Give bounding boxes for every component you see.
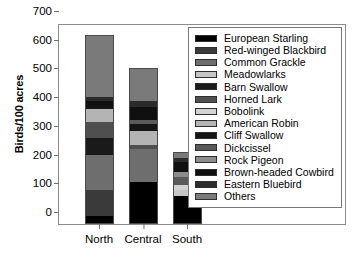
y-tick-label: 300 [33, 120, 59, 132]
legend-swatch [195, 120, 217, 127]
legend-swatch [195, 169, 217, 176]
legend-label: Rock Pigeon [224, 155, 284, 166]
y-tick-mark [54, 97, 59, 98]
y-tick-mark [54, 40, 59, 41]
legend-item: Common Grackle [195, 56, 334, 68]
legend-item: Rock Pigeon [195, 154, 334, 166]
legend: European StarlingRed-winged BlackbirdCom… [188, 27, 342, 208]
x-tick-mark [187, 224, 188, 229]
bar-segment [86, 109, 113, 122]
legend-label: Cliff Swallow [224, 130, 283, 141]
bar-segment [86, 155, 113, 191]
legend-label: Common Grackle [224, 57, 306, 68]
legend-swatch [195, 59, 217, 66]
legend-swatch [195, 156, 217, 163]
legend-item: Cliff Swallow [195, 130, 334, 142]
y-tick-label: 400 [33, 91, 59, 103]
legend-swatch [195, 83, 217, 90]
legend-label: Bobolink [224, 106, 264, 117]
x-tick-mark [143, 224, 144, 229]
legend-swatch [195, 47, 217, 54]
legend-swatch [195, 96, 217, 103]
bar-north [85, 35, 114, 225]
legend-label: Eastern Bluebird [224, 179, 302, 190]
legend-label: European Starling [224, 33, 308, 44]
legend-swatch [195, 35, 217, 42]
x-tick-label-south: South [172, 224, 202, 245]
legend-item: Brown-headed Cowbird [195, 166, 334, 178]
legend-label: Dickcissel [224, 143, 271, 154]
bar-segment [130, 182, 157, 223]
legend-label: Red-winged Blackbird [224, 45, 326, 56]
y-tick-mark [54, 11, 59, 12]
bar-segment [130, 69, 157, 102]
legend-label: Horned Lark [224, 94, 282, 105]
y-tick-mark [54, 183, 59, 184]
y-tick-mark [54, 126, 59, 127]
bar-segment [130, 107, 157, 121]
legend-swatch [195, 71, 217, 78]
y-axis-title: Birds/100 acres [13, 39, 25, 189]
bar-segment [86, 36, 113, 98]
legend-item: Barn Swallow [195, 81, 334, 93]
legend-item: Others [195, 190, 334, 202]
legend-item: Bobolink [195, 105, 334, 117]
bar-segment [86, 190, 113, 216]
bird-abundance-stacked-bar-chart: Birds/100 acres 0100200300400500600700 N… [0, 0, 360, 257]
y-tick-label: 0 [46, 206, 59, 218]
legend-label: American Robin [224, 118, 299, 129]
bar-segment [86, 216, 113, 223]
legend-item: European Starling [195, 32, 334, 44]
legend-item: Meadowlarks [195, 69, 334, 81]
y-tick-label: 200 [33, 149, 59, 161]
legend-item: Eastern Bluebird [195, 178, 334, 190]
legend-swatch [195, 193, 217, 200]
y-tick-label: 700 [33, 5, 59, 17]
bar-segment [86, 122, 113, 138]
legend-item: Red-winged Blackbird [195, 44, 334, 56]
legend-swatch [195, 144, 217, 151]
y-tick-label: 100 [33, 177, 59, 189]
x-tick-label-central: Central [124, 224, 161, 245]
legend-label: Brown-headed Cowbird [224, 167, 334, 178]
legend-item: Horned Lark [195, 93, 334, 105]
legend-swatch [195, 132, 217, 139]
legend-item: American Robin [195, 117, 334, 129]
bar-segment [130, 131, 157, 146]
bar-segment [86, 138, 113, 155]
bar-segment [130, 149, 157, 182]
y-tick-mark [54, 155, 59, 156]
x-tick-mark [99, 224, 100, 229]
legend-label: Barn Swallow [224, 82, 288, 93]
x-tick-label-north: North [85, 224, 113, 245]
legend-swatch [195, 108, 217, 115]
y-tick-label: 600 [33, 34, 59, 46]
bar-central [129, 68, 158, 224]
legend-label: Others [224, 191, 256, 202]
legend-label: Meadowlarks [224, 69, 286, 80]
y-tick-mark [54, 68, 59, 69]
y-tick-mark [54, 212, 59, 213]
legend-swatch [195, 181, 217, 188]
legend-item: Dickcissel [195, 142, 334, 154]
y-tick-label: 500 [33, 62, 59, 74]
